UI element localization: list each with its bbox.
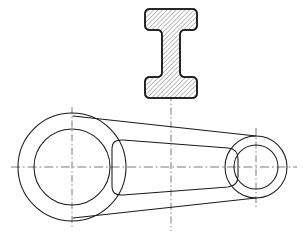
technical-drawing-canvas: Connecting Rod Engineering Drawing	[0, 0, 306, 239]
drawing-svg-root	[0, 0, 306, 239]
